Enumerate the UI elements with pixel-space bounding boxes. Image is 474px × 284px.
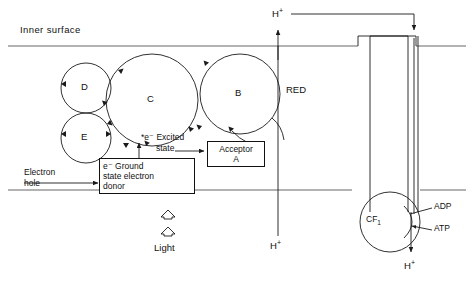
light-label: Light (154, 243, 175, 254)
excited-state-label-line2: state (156, 144, 174, 154)
proton-mid-label: H+ (270, 238, 281, 252)
cf0-channel (358, 36, 418, 214)
adp-atp-arrows (410, 208, 432, 230)
electron-hole-label-line1: Electron (24, 168, 55, 178)
photon-arrow-icon (161, 227, 175, 236)
proton-transfer-path (291, 14, 414, 30)
acceptor-line1: Acceptor (211, 144, 261, 154)
inner-surface-label: Inner surface (20, 25, 81, 36)
diagram-canvas: Inner surface D E C B RED *e⁻ Excited st… (0, 0, 474, 284)
proton-bottom-label: H+ (404, 258, 415, 272)
acceptor-line2: A (211, 154, 261, 164)
red-label: RED (286, 85, 306, 96)
carrier-label-C: C (147, 94, 154, 105)
atp-label: ATP (434, 224, 450, 234)
ground-state-donor-box: e⁻ Ground state electron donor (99, 158, 195, 194)
photon-arrow-icon (161, 210, 175, 219)
cf1-label: CF1 (366, 215, 381, 227)
carrier-label-D: D (81, 82, 88, 93)
excited-state-label-line1: *e⁻ Excited (141, 133, 184, 143)
carrier-label-E: E (81, 132, 87, 143)
light-photon-icons (161, 210, 175, 236)
proton-top-label: H+ (272, 6, 283, 20)
carrier-label-B: B (235, 88, 241, 99)
electron-hole-label-line2: hole (24, 179, 40, 189)
ground-state-line2: state electron (103, 171, 191, 181)
ground-state-line3: donor (103, 181, 191, 191)
adp-label: ADP (434, 202, 451, 212)
acceptor-box: Acceptor A (207, 141, 265, 167)
ground-state-line1: e⁻ Ground (103, 161, 191, 171)
